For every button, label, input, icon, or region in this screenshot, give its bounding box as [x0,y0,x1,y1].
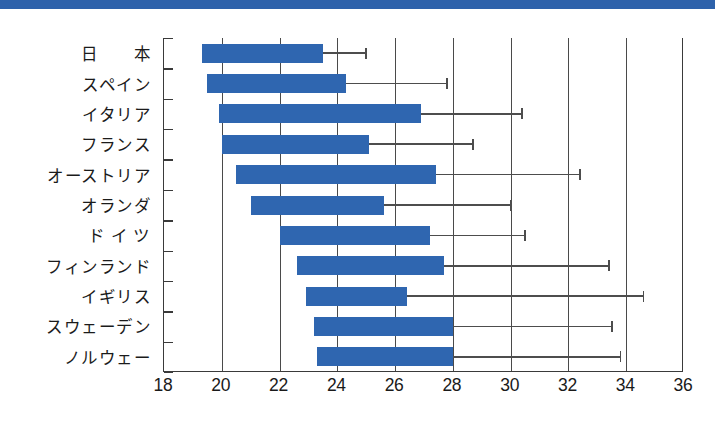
whisker-cap [579,169,581,180]
bar [222,135,369,154]
x-tick-label: 28 [442,375,461,396]
bars-and-whiskers [164,38,682,371]
whisker-line [346,83,447,85]
category-label: フィンランド [46,254,151,278]
plot-area [163,38,683,372]
x-tick-label: 30 [500,375,519,396]
x-tick-label: 36 [674,375,693,396]
whisker-line [421,113,522,115]
category-label: オーストリア [47,163,151,187]
whisker-cap [620,351,622,362]
whisker-line [430,235,525,237]
whisker-cap [446,78,448,89]
category-tick-mark [164,99,173,100]
whisker-cap [365,48,367,59]
category-label: イギリス [81,284,151,308]
category-label: イタリア [82,102,151,126]
whisker-line [407,295,644,297]
x-tick-label: 22 [269,375,288,396]
category-tick-mark [164,38,173,39]
whisker-cap [521,108,523,119]
category-tick-mark [164,220,173,221]
x-tick-label: 18 [154,375,173,396]
bar [236,165,435,184]
whisker-cap [524,230,526,241]
bar [280,226,430,245]
category-label: スペイン [82,72,151,96]
category-tick-mark [164,251,173,252]
whisker-line [444,265,609,267]
bar [251,196,384,215]
whisker-line [384,204,511,206]
bar [306,287,407,306]
whisker-cap [510,200,512,211]
category-tick-mark [164,68,173,69]
category-label: ノルウェー [64,345,152,369]
bar [219,104,421,123]
category-tick-mark [164,129,173,130]
category-tick-mark [164,281,173,282]
category-label: 日 本 [81,41,151,65]
x-tick-label: 32 [558,375,577,396]
whisker-line [453,356,621,358]
bar [314,317,453,336]
category-label: ド イ ツ [88,223,151,247]
whisker-line [453,326,612,328]
category-label: スウェーデン [46,314,151,338]
x-tick-label: 26 [385,375,404,396]
whisker-cap [472,139,474,150]
bar [297,256,444,275]
x-tick-label: 34 [616,375,635,396]
top-banner-strip [0,0,715,9]
x-tick-label: 24 [327,375,346,396]
category-axis-labels: 日 本スペインイタリアフランスオーストリアオランダド イ ツフィンランドイギリス… [0,38,157,372]
category-label: フランス [81,132,151,156]
bar [207,74,346,93]
whisker-cap [643,291,645,302]
whisker-cap [608,260,610,271]
category-tick-mark [164,190,173,191]
category-tick-mark [164,159,173,160]
bar [202,44,323,63]
category-tick-mark [164,342,173,343]
x-tick-label: 20 [211,375,230,396]
whisker-cap [611,321,613,332]
whisker-line [369,143,473,145]
category-tick-mark [164,311,173,312]
whisker-line [323,52,366,54]
bar [317,347,453,366]
range-bar-chart: 日 本スペインイタリアフランスオーストリアオランダド イ ツフィンランドイギリス… [0,9,715,424]
category-label: オランダ [81,193,151,217]
whisker-line [436,174,580,176]
category-tick-mark [164,372,173,373]
